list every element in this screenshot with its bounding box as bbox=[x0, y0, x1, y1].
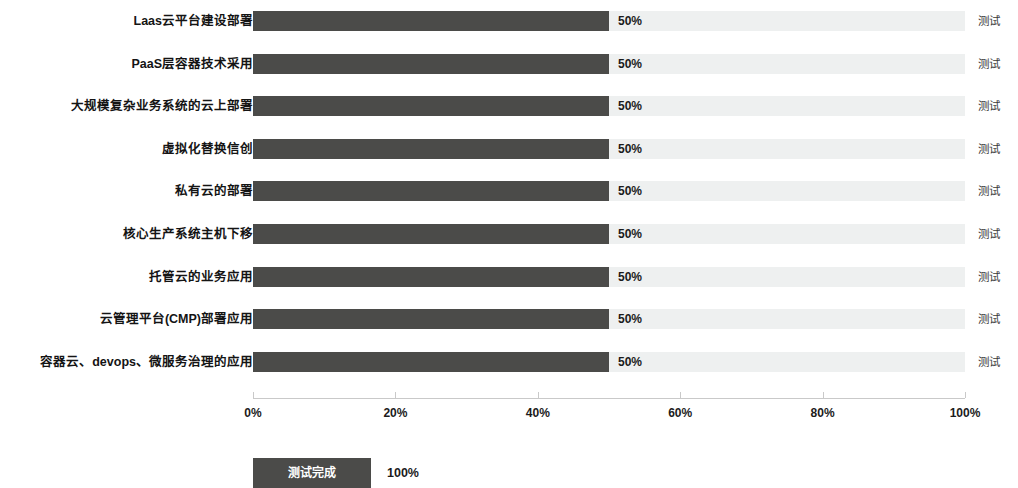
x-axis-tick bbox=[823, 392, 824, 398]
row-right-label: 测试 bbox=[978, 53, 1000, 75]
category-label: 私有云的部署 bbox=[175, 180, 253, 202]
row-right-label: 测试 bbox=[978, 10, 1000, 32]
x-axis-tick-label: 0% bbox=[244, 406, 261, 420]
category-label: 虚拟化替换信创 bbox=[162, 138, 253, 160]
bar-row: Laas云平台建设部署50%测试 bbox=[0, 10, 1018, 32]
bar-fill bbox=[253, 11, 609, 31]
legend-value-test-complete: 100% bbox=[387, 458, 419, 488]
horizontal-bar-chart: Laas云平台建设部署50%测试PaaS层容器技术采用50%测试大规模复杂业务系… bbox=[0, 0, 1018, 488]
x-axis-tick bbox=[253, 392, 254, 398]
category-label: 核心生产系统主机下移 bbox=[123, 223, 253, 245]
x-axis-tick-label: 80% bbox=[811, 406, 835, 420]
bar-fill bbox=[253, 267, 609, 287]
bar-track: 50% bbox=[253, 96, 965, 116]
bar-track: 50% bbox=[253, 11, 965, 31]
x-axis-tick bbox=[538, 392, 539, 398]
row-right-label: 测试 bbox=[978, 180, 1000, 202]
category-label: 容器云、devops、微服务治理的应用 bbox=[40, 351, 253, 373]
row-right-label: 测试 bbox=[978, 223, 1000, 245]
bar-value-label: 50% bbox=[618, 309, 642, 329]
row-right-label: 测试 bbox=[978, 95, 1000, 117]
x-axis-tick-label: 60% bbox=[668, 406, 692, 420]
bar-row: PaaS层容器技术采用50%测试 bbox=[0, 53, 1018, 75]
bar-fill bbox=[253, 96, 609, 116]
bar-row: 容器云、devops、微服务治理的应用50%测试 bbox=[0, 351, 1018, 373]
bar-row: 私有云的部署50%测试 bbox=[0, 180, 1018, 202]
bar-value-label: 50% bbox=[618, 54, 642, 74]
bar-row: 云管理平台(CMP)部署应用50%测试 bbox=[0, 308, 1018, 330]
bar-value-label: 50% bbox=[618, 96, 642, 116]
bar-fill bbox=[253, 224, 609, 244]
bar-row: 托管云的业务应用50%测试 bbox=[0, 266, 1018, 288]
bar-value-label: 50% bbox=[618, 352, 642, 372]
legend-label-test-complete: 测试完成 bbox=[253, 458, 371, 488]
bar-track: 50% bbox=[253, 181, 965, 201]
bar-row: 大规模复杂业务系统的云上部署50%测试 bbox=[0, 95, 1018, 117]
bar-value-label: 50% bbox=[618, 224, 642, 244]
bar-row: 虚拟化替换信创50%测试 bbox=[0, 138, 1018, 160]
bar-fill bbox=[253, 139, 609, 159]
bar-track: 50% bbox=[253, 139, 965, 159]
bar-fill bbox=[253, 54, 609, 74]
category-label: 云管理平台(CMP)部署应用 bbox=[100, 308, 253, 330]
x-axis-tick-label: 40% bbox=[526, 406, 550, 420]
x-axis-tick bbox=[395, 392, 396, 398]
bar-fill bbox=[253, 181, 609, 201]
bar-row: 核心生产系统主机下移50%测试 bbox=[0, 223, 1018, 245]
bar-fill bbox=[253, 309, 609, 329]
x-axis-tick bbox=[680, 392, 681, 398]
bar-track: 50% bbox=[253, 352, 965, 372]
category-label: Laas云平台建设部署 bbox=[134, 10, 254, 32]
bar-value-label: 50% bbox=[618, 181, 642, 201]
category-label: 大规模复杂业务系统的云上部署 bbox=[71, 95, 253, 117]
bar-track: 50% bbox=[253, 309, 965, 329]
category-label: 托管云的业务应用 bbox=[149, 266, 253, 288]
bar-track: 50% bbox=[253, 224, 965, 244]
bar-value-label: 50% bbox=[618, 139, 642, 159]
bar-track: 50% bbox=[253, 267, 965, 287]
category-label: PaaS层容器技术采用 bbox=[131, 53, 253, 75]
bar-fill bbox=[253, 352, 609, 372]
row-right-label: 测试 bbox=[978, 138, 1000, 160]
row-right-label: 测试 bbox=[978, 308, 1000, 330]
x-axis-tick-label: 100% bbox=[950, 406, 981, 420]
bar-track: 50% bbox=[253, 54, 965, 74]
x-axis-tick-label: 20% bbox=[383, 406, 407, 420]
bar-value-label: 50% bbox=[618, 11, 642, 31]
x-axis-line bbox=[253, 398, 965, 399]
row-right-label: 测试 bbox=[978, 351, 1000, 373]
row-right-label: 测试 bbox=[978, 266, 1000, 288]
bar-value-label: 50% bbox=[618, 267, 642, 287]
x-axis-tick bbox=[965, 392, 966, 398]
